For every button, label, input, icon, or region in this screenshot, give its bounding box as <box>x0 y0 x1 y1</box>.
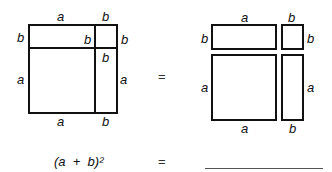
label-left-a: a <box>201 81 208 94</box>
label-inner-b2: b <box>102 51 109 64</box>
label-top-a: a <box>57 10 64 23</box>
label-top-a: a <box>241 11 248 24</box>
label-bottom-b: b <box>289 122 296 135</box>
horizontal-divider <box>28 47 118 49</box>
answer-blank[interactable] <box>205 168 323 169</box>
label-right-b: b <box>307 32 314 45</box>
label-top-b: b <box>102 10 109 23</box>
label-left-b: b <box>17 31 24 44</box>
square-a-by-a <box>211 54 277 121</box>
label-bottom-a: a <box>241 122 248 135</box>
rect-b-by-a <box>281 54 304 121</box>
label-left-b: b <box>201 32 208 45</box>
outer-square <box>28 24 118 114</box>
label-right-b: b <box>121 33 128 46</box>
equation-lhs: (a + b)² <box>54 155 104 168</box>
label-bottom-b: b <box>102 115 109 128</box>
label-left-a: a <box>17 73 24 86</box>
equation-equals: = <box>158 155 166 168</box>
label-top-b: b <box>288 11 295 24</box>
label-inner-b: b <box>84 33 91 46</box>
square-b-by-b <box>281 24 304 50</box>
vertical-divider <box>94 24 96 114</box>
label-right-a: a <box>120 73 127 86</box>
label-right-a: a <box>307 81 314 94</box>
label-bottom-a: a <box>57 115 64 128</box>
equals-sign-figures: = <box>158 70 166 83</box>
rect-a-by-b <box>211 24 277 50</box>
